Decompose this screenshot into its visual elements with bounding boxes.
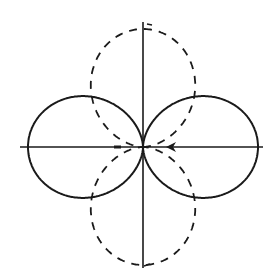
polar-lobe-diagram (0, 0, 269, 278)
axis-tick-mark (144, 264, 150, 266)
axis-tick-mark (147, 24, 152, 25)
